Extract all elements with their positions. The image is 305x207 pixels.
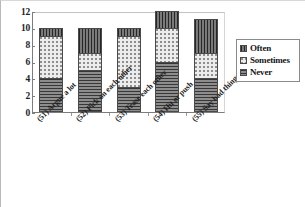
legend-swatch-never-icon [240, 69, 247, 76]
y-tick-label: 10 [2, 24, 30, 33]
y-tick-mark [32, 46, 35, 47]
legend-swatch-sometimes-icon [240, 57, 247, 64]
legend-label: Never [250, 68, 272, 77]
chart-legend: OftenSometimesNever [236, 39, 300, 82]
y-tick-label: 2 [2, 92, 30, 101]
y-tick-mark [32, 96, 35, 97]
bar-segment-often[interactable] [194, 19, 218, 53]
legend-item-sometimes[interactable]: Sometimes [240, 55, 296, 66]
legend-label: Often [250, 44, 271, 53]
bar-segment-sometimes[interactable] [39, 36, 63, 78]
y-tick-mark [32, 29, 35, 30]
legend-item-never[interactable]: Never [240, 67, 296, 78]
bar-segment-sometimes[interactable] [78, 53, 102, 70]
x-tick-mark [186, 113, 187, 116]
bar-segment-often[interactable] [117, 28, 141, 36]
y-tick-mark [32, 12, 35, 13]
bar-segment-often[interactable] [155, 11, 179, 28]
legend-item-often[interactable]: Often [240, 43, 296, 54]
x-tick-mark [109, 113, 110, 116]
y-tick-mark [32, 113, 35, 114]
y-tick-label: 6 [2, 58, 30, 67]
x-tick-mark [71, 113, 72, 116]
y-tick-label: 4 [2, 75, 30, 84]
bar-segment-often[interactable] [78, 28, 102, 53]
y-axis: 121086420 [0, 12, 30, 113]
x-tick-mark [148, 113, 149, 116]
y-tick-label: 8 [2, 41, 30, 50]
stacked-bar-chart: 121086420 (51) Argue a lot(52) Pick on e… [0, 0, 305, 207]
legend-label: Sometimes [250, 56, 290, 65]
y-tick-label: 12 [2, 8, 30, 17]
bar-segment-sometimes[interactable] [194, 53, 218, 78]
y-tick-label: 0 [2, 109, 30, 118]
bar-segment-often[interactable] [39, 28, 63, 36]
legend-swatch-often-icon [240, 45, 247, 52]
y-tick-mark [32, 79, 35, 80]
bar-segment-sometimes[interactable] [155, 28, 179, 62]
y-tick-mark [32, 63, 35, 64]
